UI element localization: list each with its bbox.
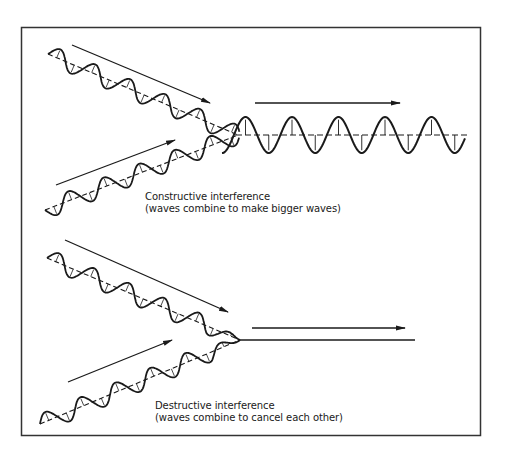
constructive-panel <box>45 45 470 215</box>
destructive-subtitle: (waves combine to cancel each other) <box>155 412 343 424</box>
incoming-wave-top-tick <box>141 95 144 102</box>
incoming-wave-bottom-tick <box>151 369 154 376</box>
incoming-wave-bottom-tick <box>54 207 57 214</box>
incoming-wave-bottom-tick <box>104 179 107 186</box>
incoming-wave-bottom-tick <box>116 384 119 391</box>
constructive-title: Constructive interference <box>145 191 341 203</box>
incoming-wave-top-tick <box>92 66 95 73</box>
incoming-wave-top-tick <box>56 255 59 262</box>
incoming-wave-bottom-tick <box>171 369 174 376</box>
incoming-wave-bottom-tick <box>125 179 128 186</box>
incoming-wave-bottom-tick <box>89 193 92 200</box>
incoming-wave-top-tick <box>105 284 108 291</box>
incoming-wave-top-tick <box>162 95 165 102</box>
incoming-wave-bottom-tick <box>175 151 178 158</box>
incoming-wave-bottom-tick <box>69 193 72 200</box>
incoming-wave-top-tick <box>232 125 235 132</box>
destructive-title: Destructive interference <box>155 400 343 412</box>
incoming-wave-top-tick <box>71 65 74 72</box>
incoming-wave-bottom-tick <box>196 152 199 159</box>
incoming-wave-top-axis <box>48 54 238 135</box>
incoming-wave-bottom-tick <box>136 384 139 391</box>
incoming-wave-top-tick <box>176 110 179 117</box>
destructive-panel <box>40 240 415 424</box>
incoming-wave-bottom-tick <box>66 413 69 420</box>
constructive-subtitle: (waves combine to make bigger waves) <box>145 203 341 215</box>
incoming-wave-top-tick <box>140 299 143 306</box>
incoming-wave-top-tick <box>231 334 232 336</box>
incoming-arrow-bottom <box>56 140 175 185</box>
incoming-wave-top-tick <box>106 80 109 87</box>
incoming-wave-top <box>48 49 239 133</box>
incoming-wave-top-tick <box>57 51 60 58</box>
incoming-wave-bottom-tick <box>46 413 49 420</box>
incoming-wave-bottom-tick <box>210 137 213 144</box>
incoming-arrow-bottom <box>68 340 172 382</box>
incoming-wave-top-tick <box>70 269 73 276</box>
constructive-caption: Constructive interference (waves combine… <box>145 191 341 215</box>
incoming-wave-bottom-tick <box>186 354 189 361</box>
incoming-wave-top <box>47 253 240 340</box>
incoming-wave-bottom-tick <box>140 165 143 172</box>
incoming-wave-top-tick <box>91 270 94 277</box>
incoming-wave-top-tick <box>196 314 199 321</box>
incoming-wave-top-tick <box>126 284 129 291</box>
incoming-wave-top-tick <box>175 314 178 321</box>
diagram-canvas <box>0 0 506 457</box>
frame-border <box>22 28 481 436</box>
incoming-wave-bottom-tick <box>206 354 209 361</box>
incoming-wave-bottom-tick <box>160 165 163 172</box>
incoming-wave-top-tick <box>197 110 200 117</box>
incoming-wave-top-tick <box>211 125 214 132</box>
incoming-arrow-top <box>72 45 210 103</box>
incoming-wave-top-tick <box>161 299 164 306</box>
incoming-wave-bottom-tick <box>81 399 84 406</box>
destructive-caption: Destructive interference (waves combine … <box>155 400 343 424</box>
incoming-wave-top-tick <box>127 80 130 87</box>
interference-diagram: Constructive interference (waves combine… <box>0 0 506 457</box>
incoming-wave-bottom-tick <box>101 398 104 405</box>
incoming-arrow-top <box>65 240 228 312</box>
incoming-wave-top-tick <box>211 329 214 335</box>
incoming-wave-bottom-tick <box>222 343 224 347</box>
